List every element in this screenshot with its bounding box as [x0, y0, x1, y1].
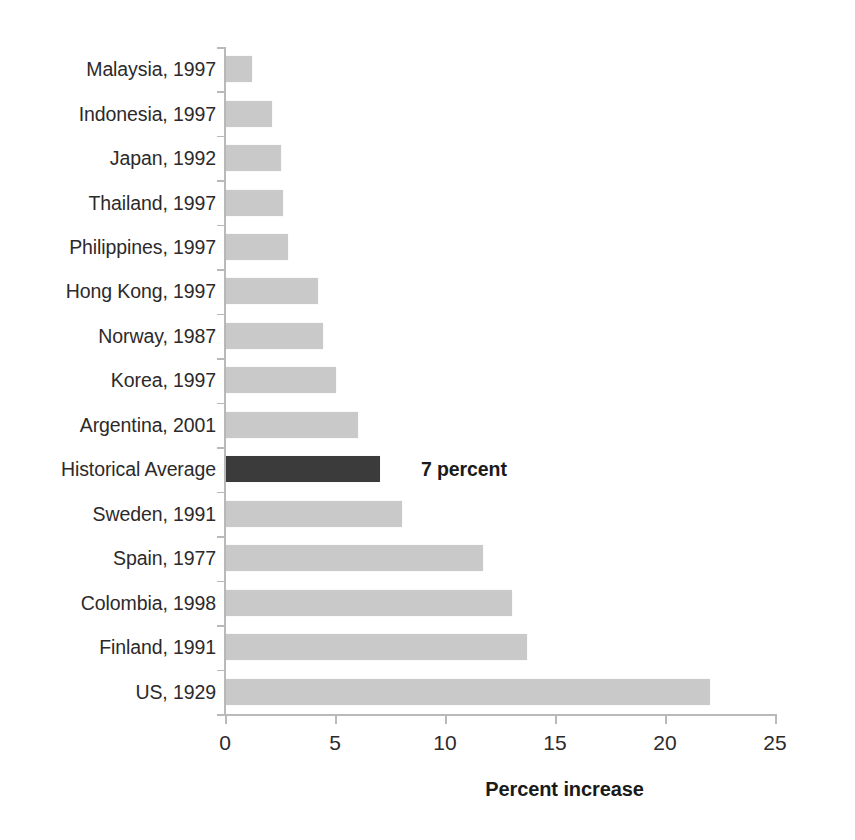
x-axis-tick [775, 714, 777, 724]
bar [226, 634, 527, 660]
category-label: Sweden, 1991 [93, 502, 216, 525]
category-label: Finland, 1991 [99, 636, 216, 659]
category-label: Historical Average [61, 458, 216, 481]
bar-row: Norway, 1987 [0, 314, 855, 358]
bar [226, 234, 288, 260]
bar [226, 412, 358, 438]
bar [226, 145, 281, 171]
bar-row: Philippines, 1997 [0, 225, 855, 269]
bar-row: Hong Kong, 1997 [0, 269, 855, 313]
bar [226, 501, 402, 527]
y-axis-tick [217, 225, 225, 227]
bar [226, 679, 710, 705]
y-axis-tick [217, 91, 225, 93]
x-axis-tick [225, 714, 227, 724]
bar-row: Argentina, 2001 [0, 403, 855, 447]
x-axis-tick-label: 0 [219, 731, 231, 755]
x-axis-tick [665, 714, 667, 724]
y-axis-tick [217, 358, 225, 360]
category-label: Malaysia, 1997 [86, 58, 216, 81]
bar-row: Malaysia, 1997 [0, 47, 855, 91]
y-axis-tick [217, 180, 225, 182]
y-axis-tick [217, 269, 225, 271]
bar-row: Indonesia, 1997 [0, 91, 855, 135]
x-axis-tick-label: 10 [433, 731, 456, 755]
y-axis-tick [217, 670, 225, 672]
x-axis-title-text: Percent increase [485, 778, 644, 801]
category-label: Spain, 1977 [113, 547, 216, 570]
x-axis-tick [445, 714, 447, 724]
y-axis-tick [217, 314, 225, 316]
category-label: Philippines, 1997 [69, 236, 216, 259]
y-axis-tick [217, 625, 225, 627]
x-axis-line [224, 714, 775, 716]
x-axis-tick-label: 25 [763, 731, 786, 755]
category-label: Hong Kong, 1997 [66, 280, 216, 303]
category-label: Colombia, 1998 [81, 591, 216, 614]
category-label: Korea, 1997 [111, 369, 216, 392]
bar-row: Thailand, 1997 [0, 180, 855, 224]
bar-rows: Malaysia, 1997Indonesia, 1997Japan, 1992… [0, 47, 855, 714]
y-axis-tick [217, 492, 225, 494]
plot-area: Malaysia, 1997Indonesia, 1997Japan, 1992… [0, 0, 855, 840]
category-label: Thailand, 1997 [88, 191, 216, 214]
x-axis-tick-label: 20 [653, 731, 676, 755]
y-axis-tick [217, 581, 225, 583]
bar-row: Sweden, 1991 [0, 492, 855, 536]
category-label: US, 1929 [135, 680, 216, 703]
bar-row: Spain, 1977 [0, 536, 855, 580]
bar [226, 367, 336, 393]
x-axis-tick-label: 15 [543, 731, 566, 755]
bar-row: Japan, 1992 [0, 136, 855, 180]
bar-highlighted [226, 456, 380, 482]
y-axis-tick [217, 536, 225, 538]
bar [226, 56, 252, 82]
bar-row: Colombia, 1998 [0, 580, 855, 624]
bar [226, 323, 323, 349]
category-label: Japan, 1992 [110, 147, 216, 170]
x-axis-title: Percent increase [0, 778, 855, 801]
category-label: Indonesia, 1997 [79, 102, 216, 125]
bar-value-annotation: 7 percent [421, 458, 507, 481]
bar [226, 545, 483, 571]
x-axis-tick-label: 5 [329, 731, 341, 755]
bar [226, 590, 512, 616]
bar-row: Historical Average7 percent [0, 447, 855, 491]
y-axis-tick [217, 403, 225, 405]
category-label: Argentina, 2001 [80, 413, 216, 436]
y-axis-tick [217, 47, 225, 49]
bar-row: Finland, 1991 [0, 625, 855, 669]
bar [226, 278, 318, 304]
category-label: Norway, 1987 [98, 324, 216, 347]
bar-row: Korea, 1997 [0, 358, 855, 402]
bar [226, 101, 272, 127]
bar-row: US, 1929 [0, 669, 855, 713]
x-axis-tick [335, 714, 337, 724]
y-axis-tick [217, 136, 225, 138]
y-axis-tick [217, 447, 225, 449]
bar [226, 190, 283, 216]
y-axis-tick [217, 714, 225, 716]
x-axis-tick [555, 714, 557, 724]
bar-chart: Malaysia, 1997Indonesia, 1997Japan, 1992… [0, 0, 855, 840]
